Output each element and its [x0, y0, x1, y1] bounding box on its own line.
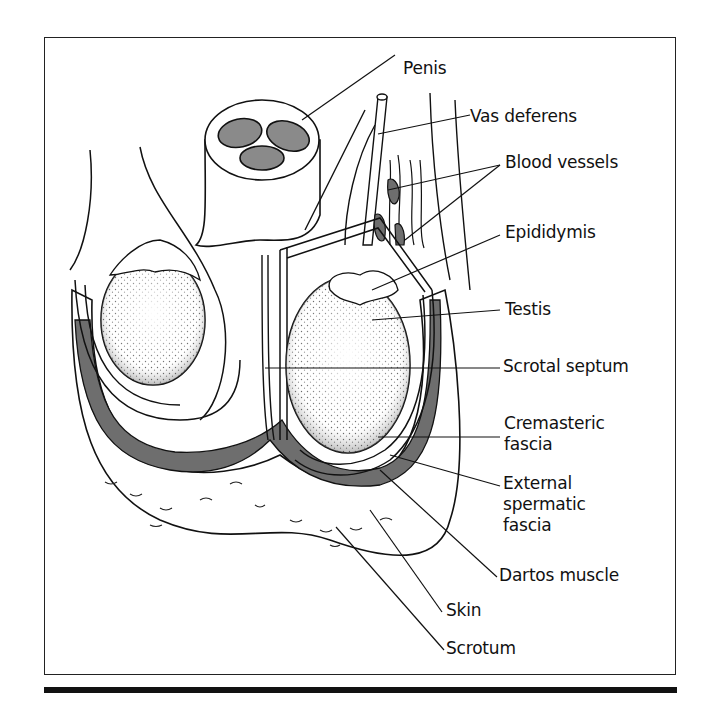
corpus-spongiosum [240, 146, 284, 170]
right-testis [286, 271, 410, 453]
label-external-line-1: External [503, 473, 586, 494]
label-scrotum: Scrotum [446, 638, 516, 659]
label-external-spermatic-fascia: External spermatic fascia [503, 473, 586, 536]
label-dartos-muscle: Dartos muscle [499, 565, 619, 586]
label-cremasteric-line-2: fascia [504, 434, 605, 455]
label-blood-vessels: Blood vessels [505, 152, 618, 173]
label-cremasteric-line-1: Cremasteric [504, 413, 605, 434]
label-external-line-3: fascia [503, 515, 586, 536]
penis-shaft [196, 100, 320, 246]
label-epididymis: Epididymis [505, 222, 596, 243]
label-skin: Skin [446, 600, 481, 621]
label-external-line-2: spermatic [503, 494, 586, 515]
left-testis [101, 240, 205, 385]
leader-epididymis [372, 235, 500, 290]
septum-line [262, 255, 274, 440]
label-cremasteric-fascia: Cremasteric fascia [504, 413, 605, 455]
label-vas-deferens: Vas deferens [470, 106, 577, 127]
label-testis: Testis [505, 299, 551, 320]
label-scrotal-septum: Scrotal septum [503, 356, 629, 377]
label-penis: Penis [403, 58, 446, 79]
leader-blood-vessels-2 [405, 165, 500, 240]
